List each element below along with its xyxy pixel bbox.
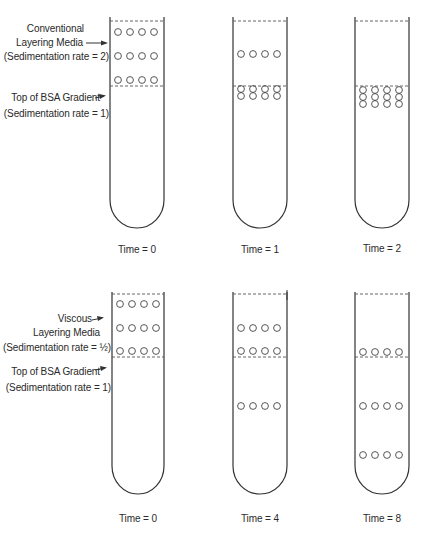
gradient-rate-label: (Sedimentation rate = 1) xyxy=(4,108,109,120)
arrow-icon xyxy=(86,41,108,46)
media-label-line1: Conventional xyxy=(27,23,84,35)
time-label: Time = 1 xyxy=(220,244,300,256)
media-label-line2: Layering Media xyxy=(33,327,100,339)
tube-top-t1 xyxy=(233,17,287,228)
tube-top-t2 xyxy=(355,17,409,228)
time-label: Time = 0 xyxy=(98,513,178,525)
particle-row xyxy=(115,53,158,60)
tube-bottom-t8 xyxy=(355,292,409,494)
media-label-line2: Layering Media xyxy=(16,37,83,49)
gradient-label: Top of BSA Gradient xyxy=(11,92,100,104)
media-rate-label: (Sedimentation rate = ½) xyxy=(3,342,111,354)
tube-bottom-t0 xyxy=(112,292,164,494)
sedimentation-diagram xyxy=(0,0,422,534)
time-label: Time = 8 xyxy=(342,513,422,525)
particle-row xyxy=(115,77,158,84)
media-label-line1: Viscous xyxy=(58,313,92,325)
time-label: Time = 4 xyxy=(220,513,300,525)
arrow-icon xyxy=(92,316,104,321)
time-label: Time = 2 xyxy=(342,243,422,255)
time-label: Time = 0 xyxy=(97,244,177,256)
gradient-rate-label: (Sedimentation rate = 1) xyxy=(6,382,111,394)
gradient-label: Top of BSA Gradient xyxy=(11,366,100,378)
media-rate-label: (Sedimentation rate = 2) xyxy=(4,51,109,63)
tube-bottom-t4 xyxy=(233,290,287,494)
particle-row xyxy=(115,29,158,36)
tube-top-t0 xyxy=(110,17,164,228)
